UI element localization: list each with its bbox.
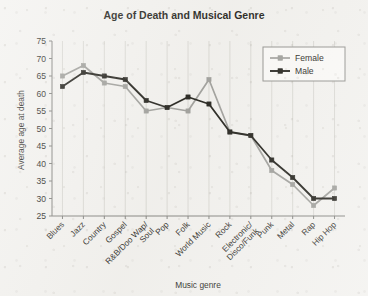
data-point-male bbox=[332, 196, 336, 200]
chart-container: Age of Death and Musical Genre 253035404… bbox=[0, 0, 368, 296]
data-series-layer bbox=[60, 63, 336, 207]
data-point-male bbox=[60, 84, 64, 88]
category-label-line: Punk bbox=[255, 219, 276, 240]
data-point-female bbox=[186, 109, 190, 113]
data-point-male bbox=[228, 130, 232, 134]
y-axis-ticks: 2530354045505560657075 bbox=[36, 36, 52, 221]
y-axis-tick-label: 55 bbox=[36, 106, 46, 116]
data-point-female bbox=[332, 186, 336, 190]
legend-label-male[interactable]: Male bbox=[295, 66, 314, 76]
data-point-female bbox=[123, 84, 127, 88]
y-axis-tick-label: 40 bbox=[36, 159, 46, 169]
line-chart: Age of Death and Musical Genre 253035404… bbox=[0, 0, 368, 296]
data-point-female bbox=[144, 109, 148, 113]
data-point-female bbox=[312, 203, 316, 207]
category-label: R&B/Doo Wap/Soul bbox=[103, 219, 156, 272]
data-point-male bbox=[102, 74, 106, 78]
category-labels: BluesJazzCountryGospelR&B/Doo Wap/SoulPo… bbox=[44, 219, 338, 273]
data-point-female bbox=[291, 182, 295, 186]
data-point-male bbox=[81, 70, 85, 74]
y-axis-tick-label: 70 bbox=[36, 54, 46, 64]
y-axis-tick-label: 45 bbox=[36, 141, 46, 151]
data-point-male bbox=[312, 196, 316, 200]
y-axis-title: Average age at death bbox=[16, 90, 26, 170]
category-label: Blues bbox=[44, 219, 66, 241]
data-point-male bbox=[144, 98, 148, 102]
x-axis-title: Music genre bbox=[175, 280, 221, 290]
data-point-female bbox=[270, 168, 274, 172]
y-axis-tick-label: 50 bbox=[36, 124, 46, 134]
category-label-line: Pop bbox=[153, 219, 171, 237]
legend-swatch-marker-male bbox=[278, 69, 283, 74]
category-label: Country bbox=[80, 219, 108, 247]
chart-legend[interactable]: FemaleMale bbox=[263, 47, 345, 81]
category-label: Metal bbox=[275, 219, 297, 241]
data-point-male bbox=[249, 133, 253, 137]
data-point-female bbox=[102, 81, 106, 85]
legend-label-female[interactable]: Female bbox=[295, 53, 324, 63]
category-label: Punk bbox=[255, 219, 276, 240]
chart-title: Age of Death and Musical Genre bbox=[103, 9, 264, 21]
data-point-male bbox=[291, 175, 295, 179]
category-label-line: Country bbox=[80, 219, 108, 247]
y-axis-tick-label: 35 bbox=[36, 176, 46, 186]
data-point-female bbox=[207, 77, 211, 81]
category-label-line: Blues bbox=[44, 219, 66, 241]
data-point-female bbox=[81, 63, 85, 67]
data-point-male bbox=[270, 158, 274, 162]
y-axis-tick-label: 60 bbox=[36, 89, 46, 99]
category-label-line: Metal bbox=[275, 219, 297, 241]
data-point-male bbox=[207, 102, 211, 106]
y-axis-tick-label: 65 bbox=[36, 71, 46, 81]
y-axis-tick-label: 25 bbox=[36, 211, 46, 221]
data-point-male bbox=[123, 77, 127, 81]
data-point-female bbox=[60, 74, 64, 78]
legend-swatch-marker-female bbox=[278, 56, 283, 61]
data-point-male bbox=[186, 95, 190, 99]
data-point-male bbox=[165, 105, 169, 109]
y-axis-tick-label: 75 bbox=[36, 36, 46, 46]
category-label: Pop bbox=[153, 219, 171, 237]
y-axis-tick-label: 30 bbox=[36, 194, 46, 204]
